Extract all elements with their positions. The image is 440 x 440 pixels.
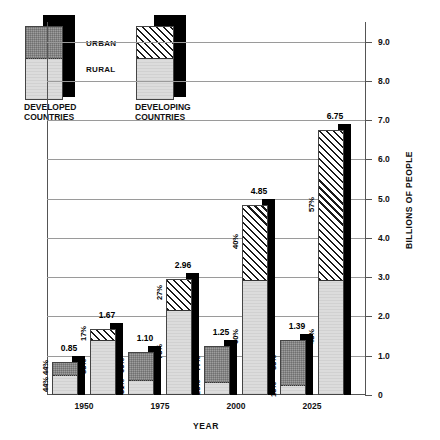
bar-urban-pct-label-developing-2025: 57% <box>307 196 316 211</box>
y-tick-label: 6.0 <box>378 154 390 164</box>
gridline <box>47 42 365 43</box>
bar-segment-rural-developing-1975 <box>167 311 191 394</box>
x-tick-label-2025: 2025 <box>303 401 322 411</box>
bar-value-label-developing-1975: 2.96 <box>175 260 192 270</box>
bar-developing-2025[interactable] <box>318 130 344 395</box>
bar-rural-pct-label-developing-2025: 43% <box>307 329 316 344</box>
bar-urban-pct-label-developed-1950: 44% <box>41 360 50 375</box>
bar-rural-pct-label-developed-2025: 15% <box>269 382 278 397</box>
bar-segment-rural-developing-2000 <box>243 281 267 394</box>
y-tick-mark <box>365 120 372 121</box>
bar-rural-pct-label-developing-1950: 83% <box>79 359 88 374</box>
x-tick-label-1950: 1950 <box>75 401 94 411</box>
bar-urban-pct-label-developed-2000: 77% <box>193 356 202 371</box>
bar-segment-rural-developed-2000 <box>205 383 229 394</box>
bar-segment-rural-developed-2025 <box>281 386 305 394</box>
bar-rural-pct-label-developing-1975: 73% <box>155 344 164 359</box>
bar-rural-pct-label-developing-2000: 60% <box>231 329 240 344</box>
bar-value-label-developing-2025: 6.75 <box>327 111 344 121</box>
y-tick-label: 4.0 <box>378 233 390 243</box>
bar-developed-2025[interactable] <box>280 340 306 395</box>
y-tick-mark <box>365 356 372 357</box>
y-tick-label: 2.0 <box>378 311 390 321</box>
y-tick-label: 9.0 <box>378 37 390 47</box>
gridline <box>47 81 365 82</box>
y-tick-mark <box>365 316 372 317</box>
bar-segment-urban-developing-2025 <box>319 131 343 281</box>
bar-segment-rural-developed-1950 <box>53 376 77 394</box>
bar-segment-urban-developed-1950 <box>53 363 77 377</box>
bar-segment-urban-developed-2000 <box>205 347 229 383</box>
x-tick-label-2000: 2000 <box>227 401 246 411</box>
y-tick-mark <box>365 277 372 278</box>
bar-segment-rural-developed-1975 <box>129 381 153 394</box>
bar-urban-pct-label-developing-1950: 17% <box>79 326 88 341</box>
bar-developing-1950[interactable] <box>90 329 116 395</box>
bar-value-label-developing-1950: 1.67 <box>99 310 116 320</box>
y-tick-label: 8.0 <box>378 76 390 86</box>
gridline <box>47 120 365 121</box>
y-tick-mark <box>365 159 372 160</box>
y-tick-mark <box>365 238 372 239</box>
bar-value-label-developed-2025: 1.39 <box>289 321 306 331</box>
y-axis-title: BILLIONS OF PEOPLE <box>404 151 414 249</box>
bar-segment-urban-developing-1975 <box>167 280 191 311</box>
bar-rural-pct-label-developed-1975: 31% <box>117 379 126 394</box>
bar-value-label-developed-2000: 1.25 <box>213 327 230 337</box>
y-axis-right-line <box>365 22 366 395</box>
y-tick-mark <box>365 42 372 43</box>
bar-developing-1975[interactable] <box>166 279 192 395</box>
bar-developed-1950[interactable] <box>52 362 78 395</box>
bar-segment-urban-developed-2025 <box>281 341 305 386</box>
bar-developed-2000[interactable] <box>204 346 230 395</box>
bar-value-label-developed-1975: 1.10 <box>137 333 154 343</box>
bar-urban-pct-label-developed-2025: 85% <box>269 355 278 370</box>
y-tick-label: 3.0 <box>378 272 390 282</box>
bar-segment-rural-developing-1950 <box>91 341 115 394</box>
x-tick-label-1975: 1975 <box>151 401 170 411</box>
bar-rural-pct-label-developed-1950: 44% <box>41 377 50 392</box>
x-axis-title: YEAR <box>193 421 219 431</box>
y-tick-mark <box>365 81 372 82</box>
bar-segment-rural-developing-2025 <box>319 281 343 394</box>
bar-segment-urban-developing-1950 <box>91 330 115 341</box>
bar-developed-1975[interactable] <box>128 352 154 395</box>
bar-segment-urban-developed-1975 <box>129 353 153 381</box>
y-tick-label: 1.0 <box>378 351 390 361</box>
bar-segment-urban-developing-2000 <box>243 206 267 281</box>
bar-developing-2000[interactable] <box>242 205 268 395</box>
bar-urban-pct-label-developed-1975: 69% <box>117 358 126 373</box>
bar-rural-pct-label-developed-2000: 23% <box>193 380 202 395</box>
bar-urban-pct-label-developing-2000: 40% <box>231 234 240 249</box>
y-tick-label: 0 <box>378 390 383 400</box>
bar-value-label-developing-2000: 4.85 <box>251 186 268 196</box>
y-tick-label: 7.0 <box>378 115 390 125</box>
y-tick-mark <box>365 199 372 200</box>
y-tick-mark <box>365 395 372 396</box>
y-tick-label: 5.0 <box>378 194 390 204</box>
bar-urban-pct-label-developing-1975: 27% <box>155 285 164 300</box>
bar-value-label-developed-1950: 0.85 <box>61 343 78 353</box>
